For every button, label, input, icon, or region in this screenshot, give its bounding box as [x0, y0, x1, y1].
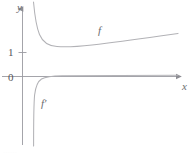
footer-watermark: ······: [3, 150, 17, 157]
x-axis-label: x: [182, 81, 187, 92]
origin-label: 0: [8, 72, 14, 83]
y-tick-label-one: 1: [8, 47, 14, 58]
function-and-derivative-figure: y x 1 0 f f′ ······: [0, 0, 194, 159]
curve-f: [34, 2, 179, 47]
curve-label-f: f: [98, 25, 101, 36]
curve-f-prime: [34, 75, 178, 146]
plot-canvas: [0, 0, 194, 159]
y-axis-label: y: [17, 2, 22, 13]
curve-label-f-prime: f′: [41, 98, 46, 109]
